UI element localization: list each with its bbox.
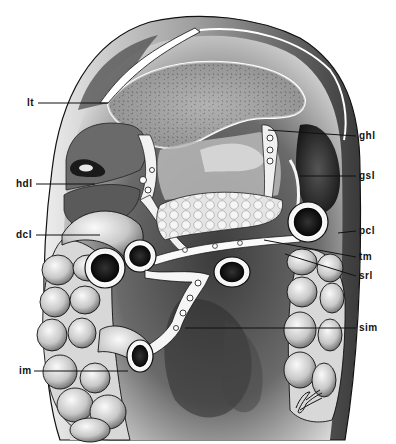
label-srl: srl [359, 271, 373, 281]
label-lt: lt [27, 98, 34, 108]
label-ghl: ghl [359, 131, 376, 141]
label-im: im [19, 366, 32, 376]
colon-lumen-1 [85, 248, 125, 288]
label-sim: sim [359, 323, 378, 333]
colon-lumen-2 [124, 240, 156, 272]
label-gsl: gsl [359, 171, 375, 181]
label-hdl: hdl [16, 179, 33, 189]
label-dcl: dcl [16, 230, 32, 240]
colon-lumen-splenic [288, 202, 328, 242]
anatomy-illustration [0, 0, 396, 444]
label-pcl: pcl [359, 226, 375, 236]
jejunum-lumen [214, 257, 250, 287]
ileum-lumen [127, 340, 153, 372]
label-tm: tm [359, 252, 372, 262]
